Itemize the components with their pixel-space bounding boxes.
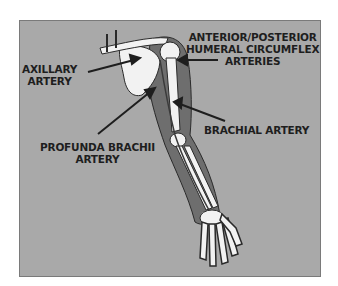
label-profunda-brachii-artery: PROFUNDA BRACHII ARTERY [40,141,155,165]
label-axillary-artery: AXILLARY ARTERY [22,63,77,87]
hand-skeleton [200,210,242,266]
label-brachial-artery: BRACHIAL ARTERY [204,124,309,136]
label-humeral-circumflex-arteries: ANTERIOR/POSTERIOR HUMERAL CIRCUMFLEX AR… [186,31,319,67]
